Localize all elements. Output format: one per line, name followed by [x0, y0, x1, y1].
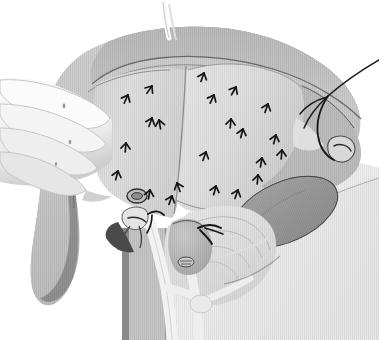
illustration-canvas — [0, 0, 379, 340]
surgical-illustration — [0, 0, 379, 340]
surgical-clip-upper — [127, 189, 147, 203]
